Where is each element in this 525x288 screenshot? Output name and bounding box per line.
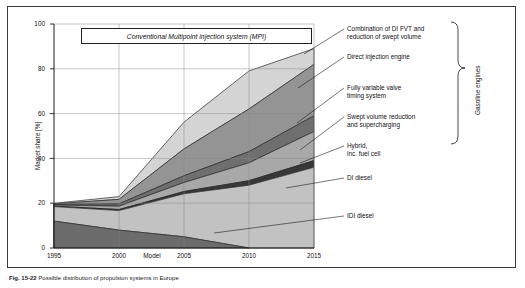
x-tick-2010: 2010 [234, 252, 264, 259]
figure-container: Conventional Multipoint injection system… [0, 0, 525, 288]
x-tick-2015: 2015 [299, 252, 329, 259]
x-tick-2005: 2005 [169, 252, 199, 259]
y-tick-20: 20 [25, 199, 45, 206]
y-tick-0: 0 [25, 244, 45, 251]
callout-direct-injection: Direct injection engine [347, 53, 410, 61]
callout-combination: Combination of DI FVT and reduction of s… [347, 25, 424, 40]
y-axis-title: Market share [%] [34, 122, 41, 170]
x-tick-1995: 1995 [39, 252, 69, 259]
y-tick-60: 60 [25, 110, 45, 117]
y-tick-100: 100 [25, 20, 45, 27]
callout-swept-volume: Swept volume reduction and supercharging [347, 113, 415, 128]
x-axis-title: Model [137, 252, 167, 259]
callout-di-diesel: DI diesel [347, 174, 372, 182]
y-tick-80: 80 [25, 65, 45, 72]
figure-caption: Fig. 15-22 Possible distribution of prop… [9, 274, 509, 282]
callout-fvvt: Fully variable valve timing system [347, 84, 401, 99]
chart-frame [7, 6, 516, 268]
figure-caption-text: Possible distribution of propulsion syst… [38, 275, 178, 281]
callout-idi-diesel: IDI diesel [347, 212, 374, 220]
y-tick-40: 40 [25, 155, 45, 162]
callout-hybrid: Hybrid, inc. fuel cell [347, 142, 380, 157]
gasoline-engines-label: Gasoline engines [474, 66, 481, 115]
mpi-title-box: Conventional Multipoint injection system… [81, 28, 312, 44]
figure-caption-prefix: Fig. 15-22 [9, 275, 37, 281]
x-tick-2000: 2000 [104, 252, 134, 259]
mpi-title-label: Conventional Multipoint injection system… [127, 33, 266, 40]
